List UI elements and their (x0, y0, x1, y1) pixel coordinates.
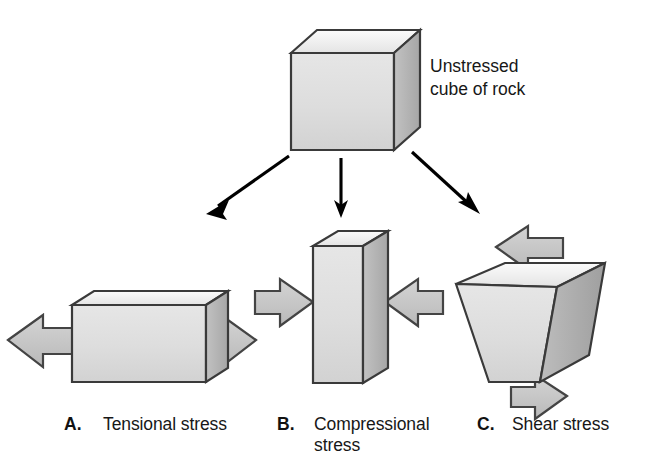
stress-diagram-figure: Unstressedcube of rock A. Tensional stre… (0, 0, 647, 476)
caption-label-a: Tensional stress (103, 414, 227, 435)
compression-arrow-left (255, 279, 313, 326)
caption-letter-a: A. (64, 414, 82, 435)
cube-front-face (291, 53, 394, 150)
shear-block-icon (456, 263, 605, 382)
diagram-canvas (0, 0, 647, 476)
arrow-to-tensional (206, 156, 289, 220)
unstressed-cube-label: Unstressedcube of rock (430, 55, 525, 101)
panel-compressional (255, 231, 443, 383)
unstressed-cube-icon (291, 30, 420, 150)
arrow-to-compressional (334, 158, 348, 218)
caption-label-c: Shear stress (512, 414, 609, 435)
compression-arrow-right (385, 279, 443, 326)
unstressed-label-line1: Unstressed (430, 56, 519, 76)
caption-letter-c: C. (477, 414, 495, 435)
tension-arrow-left (8, 315, 77, 367)
caption-label-b-line2: stress (314, 435, 360, 455)
caption-label-b-line1: Compressional (314, 414, 429, 434)
unstressed-label-line2: cube of rock (430, 79, 525, 99)
caption-letter-b: B. (277, 414, 295, 435)
panel-tensional (8, 291, 256, 382)
tensional-block-icon (72, 291, 228, 382)
caption-label-b: Compressionalstress (314, 414, 429, 456)
panel-shear (456, 226, 605, 419)
arrow-to-shear (412, 152, 480, 214)
compressional-block-icon (313, 231, 388, 383)
